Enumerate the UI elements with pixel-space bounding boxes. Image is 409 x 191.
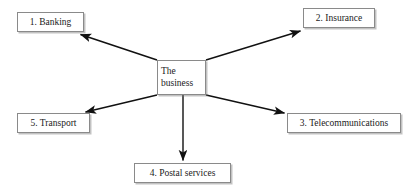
node-the-business[interactable]: Thebusiness — [157, 60, 206, 95]
node-telecommunications-label: 3. Telecommunications — [300, 118, 388, 129]
connector-center-to-transport — [86, 95, 158, 112]
node-transport[interactable]: 5. Transport — [17, 113, 90, 133]
node-transport-label: 5. Transport — [31, 118, 77, 129]
connector-center-to-insurance — [206, 31, 301, 60]
business-relationships-diagram: 1. Banking 2. Insurance 3. Telecommunica… — [0, 0, 409, 191]
node-the-business-label: Thebusiness — [161, 66, 202, 90]
node-insurance-label: 2. Insurance — [316, 13, 362, 24]
node-banking-label: 1. Banking — [30, 17, 72, 28]
node-banking[interactable]: 1. Banking — [17, 12, 84, 32]
node-insurance[interactable]: 2. Insurance — [303, 8, 375, 28]
node-postal-services[interactable]: 4. Postal services — [134, 163, 231, 183]
connector-center-to-banking — [81, 35, 158, 61]
connector-center-to-telecommunications — [206, 95, 285, 113]
node-postal-services-label: 4. Postal services — [150, 168, 216, 179]
node-telecommunications[interactable]: 3. Telecommunications — [287, 113, 401, 133]
